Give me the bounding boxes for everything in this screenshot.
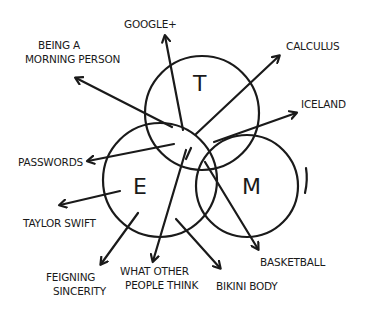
arrow-bikini-body (176, 219, 220, 268)
label-calculus: Calculus (286, 40, 339, 53)
arrow-what-other-people-think (153, 150, 186, 261)
arrow-morning-person (76, 78, 172, 127)
label-feigning-line2: Sincerity (53, 285, 106, 298)
arrow-iceland (214, 113, 296, 142)
label-googleplus: Google+ (124, 18, 177, 31)
circle-m-label: M (242, 176, 261, 198)
arrow-taylor-swift (60, 191, 120, 205)
label-bikini-body: Bikini Body (216, 280, 278, 293)
label-taylor-swift: Taylor Swift (23, 217, 96, 230)
m-circle-tick-mark (305, 168, 307, 193)
label-iceland: Iceland (301, 98, 346, 111)
venn-diagram: T E M Google+ Being a Morning Person Cal… (0, 0, 368, 322)
circle-e-label: E (133, 176, 147, 198)
label-morning-line2: Morning Person (25, 53, 120, 66)
label-what-other-line2: People Think (125, 279, 198, 292)
label-basketball: Basketball (260, 256, 325, 269)
label-morning-line1: Being a (38, 39, 80, 52)
arrow-googleplus (165, 36, 183, 130)
label-feigning-line1: Feigning (46, 271, 95, 284)
circle-e (103, 123, 217, 237)
label-passwords: Passwords (18, 156, 83, 169)
label-what-other-line1: What Other (120, 265, 189, 278)
circle-t-label: T (193, 73, 206, 95)
